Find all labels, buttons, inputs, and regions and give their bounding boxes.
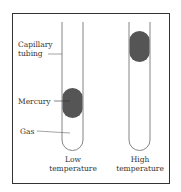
caption-low-temperature: Low temperature [46, 155, 100, 173]
label-capillary-tubing: Capillary tubing [18, 40, 53, 58]
mercury-high [130, 31, 150, 62]
label-mercury: Mercury [18, 97, 51, 106]
tube-low-temperature [62, 22, 83, 151]
caption-high-temperature: High temperature [112, 155, 168, 173]
label-gas: Gas [20, 127, 34, 136]
mercury-low [63, 88, 83, 118]
tube-high-temperature [129, 22, 150, 151]
leader-gas [37, 131, 70, 133]
